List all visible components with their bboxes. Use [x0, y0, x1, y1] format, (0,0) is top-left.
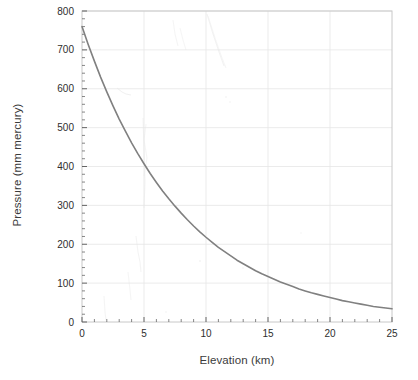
svg-text:0: 0	[79, 328, 85, 339]
svg-text:0: 0	[68, 317, 74, 328]
svg-text:300: 300	[57, 200, 74, 211]
svg-text:500: 500	[57, 122, 74, 133]
svg-text:600: 600	[57, 83, 74, 94]
svg-text:700: 700	[57, 44, 74, 55]
svg-text:25: 25	[386, 328, 398, 339]
svg-text:800: 800	[57, 6, 74, 17]
pressure-elevation-chart: 01002003004005006007008000510152025	[0, 0, 418, 380]
svg-text:400: 400	[57, 161, 74, 172]
svg-text:200: 200	[57, 239, 74, 250]
figure-background	[0, 0, 418, 380]
svg-text:100: 100	[57, 278, 74, 289]
svg-text:10: 10	[200, 328, 212, 339]
svg-text:20: 20	[324, 328, 336, 339]
svg-text:5: 5	[141, 328, 147, 339]
chart-figure: 01002003004005006007008000510152025 Pres…	[0, 0, 418, 380]
svg-text:15: 15	[262, 328, 274, 339]
